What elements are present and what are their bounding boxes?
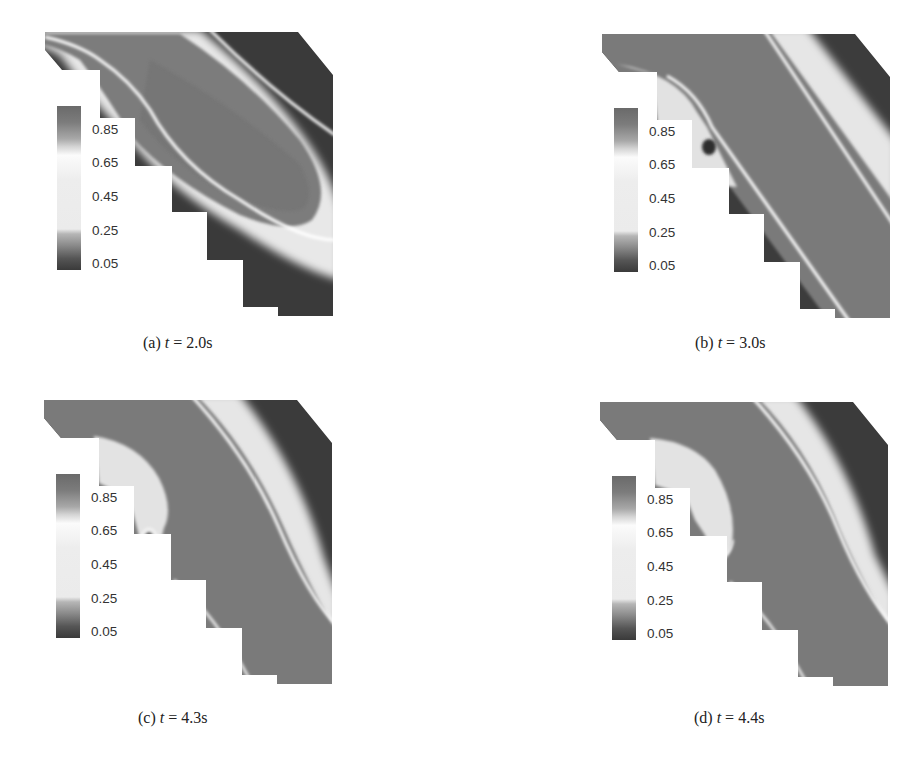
caption-value: 3.0s (739, 334, 765, 351)
caption-variable: t (718, 334, 722, 351)
caption-label: (d) (694, 709, 713, 726)
colorbar-tick: 0.25 (91, 592, 117, 606)
colorbar-c (56, 474, 80, 638)
colorbar-tick: 0.05 (649, 259, 675, 273)
caption-label: (c) (138, 709, 156, 726)
caption-equals: = (173, 334, 182, 351)
caption-value: 4.4s (738, 709, 764, 726)
panel-b (597, 27, 924, 367)
colorbar-gradient (56, 474, 80, 638)
caption-label: (b) (695, 334, 714, 351)
colorbar-tick: 0.05 (647, 627, 673, 641)
colorbar-tick: 0.25 (92, 224, 118, 238)
colorbar-tick: 0.45 (647, 560, 673, 574)
colorbar-tick: 0.05 (92, 257, 118, 271)
colorbar-labels-b: 0.85 0.65 0.45 0.25 0.05 (649, 125, 709, 305)
caption-value: 4.3s (181, 709, 207, 726)
colorbar-gradient (614, 108, 638, 272)
contour-field-a (40, 25, 340, 325)
colorbar-tick: 0.65 (649, 158, 675, 172)
colorbar-tick: 0.85 (647, 493, 673, 507)
colorbar-tick: 0.65 (92, 156, 118, 170)
colorbar-labels-d: 0.85 0.65 0.45 0.25 0.05 (647, 493, 707, 673)
colorbar-tick: 0.85 (91, 491, 117, 505)
colorbar-tick: 0.45 (91, 558, 117, 572)
panel-d (595, 395, 924, 735)
caption-variable: t (165, 334, 169, 351)
contour-field-d (595, 395, 895, 695)
colorbar-labels-a: 0.85 0.65 0.45 0.25 0.05 (92, 123, 152, 303)
colorbar-tick: 0.05 (91, 625, 117, 639)
colorbar-gradient (612, 476, 636, 640)
colorbar-d (612, 476, 636, 640)
colorbar-tick: 0.65 (647, 526, 673, 540)
colorbar-tick: 0.45 (92, 190, 118, 204)
colorbar-tick: 0.65 (91, 524, 117, 538)
contour-field-c (39, 393, 339, 693)
colorbar-tick: 0.45 (649, 192, 675, 206)
colorbar-tick: 0.25 (649, 226, 675, 240)
caption-equals: = (726, 334, 735, 351)
colorbar-tick: 0.25 (647, 594, 673, 608)
caption-a: (a) t = 2.0s (143, 334, 212, 352)
caption-label: (a) (143, 334, 161, 351)
caption-variable: t (160, 709, 164, 726)
caption-equals: = (725, 709, 734, 726)
caption-value: 2.0s (186, 334, 212, 351)
colorbar-tick: 0.85 (92, 123, 118, 137)
colorbar-gradient (57, 106, 81, 270)
colorbar-labels-c: 0.85 0.65 0.45 0.25 0.05 (91, 491, 151, 671)
caption-equals: = (168, 709, 177, 726)
caption-variable: t (717, 709, 721, 726)
colorbar-a (57, 106, 81, 270)
colorbar-b (614, 108, 638, 272)
caption-b: (b) t = 3.0s (695, 334, 765, 352)
contour-field-b (597, 27, 897, 327)
colorbar-tick: 0.85 (649, 125, 675, 139)
caption-c: (c) t = 4.3s (138, 709, 207, 727)
caption-d: (d) t = 4.4s (694, 709, 764, 727)
